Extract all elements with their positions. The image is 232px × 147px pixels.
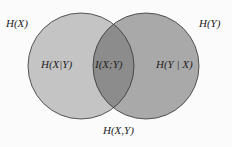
label-hx-given-y: H(X|Y)	[41, 58, 72, 70]
venn-diagram: H(X) H(Y) H(X|Y) I(X;Y) H(Y | X) H(X,Y)	[0, 0, 232, 147]
label-hy-given-x: H(Y | X)	[156, 58, 193, 70]
label-mutual-info: I(X;Y)	[95, 58, 123, 70]
label-joint-entropy: H(X,Y)	[103, 124, 134, 136]
label-hx: H(X)	[6, 17, 28, 29]
label-hy: H(Y)	[199, 17, 220, 29]
